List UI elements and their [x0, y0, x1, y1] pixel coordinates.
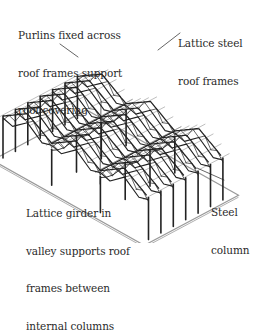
label-purlins-line-1: Purlins fixed across	[18, 29, 122, 42]
label-purlins: Purlins fixed across roof frames support…	[18, 4, 122, 142]
lattice-web-member	[138, 115, 144, 117]
label-purlins-line-3: roof covering	[18, 104, 122, 117]
lattice-web-member	[186, 143, 192, 145]
label-steel-column: Steel column	[211, 181, 249, 281]
label-valley-girder-line-1: Lattice girder in	[26, 207, 130, 220]
label-valley-girder: Lattice girder in valley supports roof f…	[26, 182, 130, 334]
lattice-web-member	[217, 151, 223, 162]
leader-line-lattice-frames	[158, 33, 180, 50]
label-steel-column-line-1: Steel	[211, 206, 249, 219]
label-valley-girder-line-4: internal columns	[26, 320, 130, 333]
lattice-web-member	[132, 109, 138, 117]
label-lattice-frames-line-1: Lattice steel	[178, 37, 243, 50]
label-valley-girder-line-3: frames between	[26, 282, 130, 295]
label-valley-girder-line-2: valley supports roof	[26, 245, 130, 258]
label-purlins-line-2: roof frames support	[18, 67, 122, 80]
lattice-web-member	[199, 136, 205, 138]
label-lattice-frames-line-2: roof frames	[178, 75, 243, 88]
label-lattice-frames: Lattice steel roof frames	[178, 12, 243, 112]
lattice-web-member	[144, 102, 150, 110]
label-steel-column-line-2: column	[211, 244, 249, 257]
lattice-web-member	[205, 157, 211, 168]
lattice-web-member	[193, 129, 199, 137]
lattice-web-member	[150, 109, 156, 111]
